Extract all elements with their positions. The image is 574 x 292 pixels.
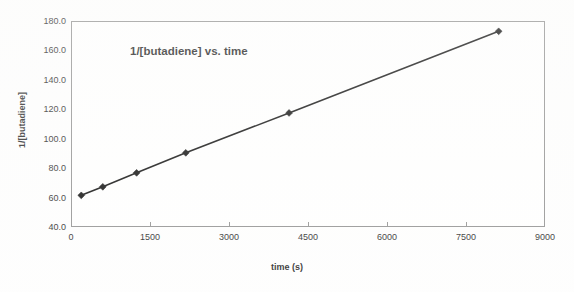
x-tick-label: 9000: [515, 232, 574, 242]
x-tick-mark: [308, 222, 309, 227]
x-axis-tick-labels: 0150030004500600075009000: [0, 0, 574, 292]
x-tick-label: 1500: [120, 232, 180, 242]
x-tick-mark: [150, 222, 151, 227]
x-tick-mark: [229, 222, 230, 227]
x-tick-label: 3000: [199, 232, 259, 242]
x-tick-label: 6000: [357, 232, 417, 242]
x-tick-label: 4500: [278, 232, 338, 242]
x-axis-title: time (s): [0, 262, 574, 272]
x-tick-label: 7500: [436, 232, 496, 242]
chart-figure: 1/[butadiene] 40.060.080.0100.0120.0140.…: [0, 0, 574, 292]
x-tick-mark: [387, 222, 388, 227]
x-tick-mark: [466, 222, 467, 227]
x-tick-label: 0: [41, 232, 101, 242]
